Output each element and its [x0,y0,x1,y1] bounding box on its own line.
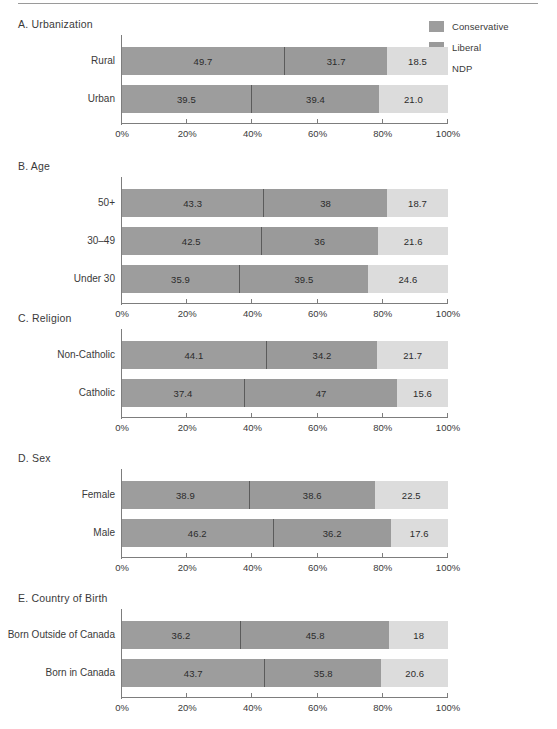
x-axis-tick-label: 0% [115,422,129,433]
legend-item-conservative: Conservative [429,18,549,35]
x-axis-tick [186,299,187,303]
bar-segment-value: 21.6 [404,236,423,247]
stacked-bar: 36.245.818 [122,621,448,649]
stacked-bar: 43.735.820.6 [122,659,448,687]
x-axis-tick-label: 20% [178,308,197,319]
x-axis-tick [382,553,383,557]
bar-row: Male46.236.217.6 [0,519,557,547]
bar-segment-value: 47 [316,388,327,399]
x-axis-line [121,123,448,124]
bar-segment-ndp: 20.6 [381,659,448,687]
bar-row: Born in Canada43.735.820.6 [0,659,557,687]
bar-segment-conservative: 43.7 [122,659,264,687]
bar-category-label: Born Outside of Canada [0,621,115,649]
bar-segment-liberal: 38.6 [249,481,375,509]
bar-segment-conservative: 49.7 [122,47,284,75]
bar-segment-value: 31.7 [327,56,346,67]
x-axis-tick-label: 60% [308,308,327,319]
bar-category-label: 30–49 [0,227,115,255]
bar-segment-ndp: 21.0 [379,85,447,113]
x-axis-tick-label: 40% [243,562,262,573]
stacked-bar: 35.939.524.6 [122,265,448,293]
bar-segment-value: 44.1 [184,350,203,361]
bar-row: Born Outside of Canada36.245.818 [0,621,557,649]
stacked-bar: 43.33818.7 [122,189,448,217]
x-axis-tick [121,299,122,303]
x-axis-tick [251,413,252,417]
legend-swatch-conservative-icon [429,21,444,32]
bar-segment-conservative: 37.4 [122,379,244,407]
x-axis-tick-label: 60% [308,562,327,573]
bar-segment-value: 24.6 [398,274,417,285]
x-axis-tick-label: 100% [436,702,460,713]
x-axis-tick-label: 60% [308,702,327,713]
bar-segment-liberal: 45.8 [240,621,389,649]
x-axis-tick-label: 80% [373,702,392,713]
bar-segment-value: 39.4 [306,94,325,105]
bar-row: Catholic37.44715.6 [0,379,557,407]
bar-segment-liberal: 36 [261,227,378,255]
panel-title: E. Country of Birth [18,592,108,604]
bar-segment-value: 49.7 [194,56,213,67]
stacked-bar: 37.44715.6 [122,379,448,407]
stacked-bar: 44.134.221.7 [122,341,448,369]
x-axis-tick [317,299,318,303]
x-axis-tick [447,693,448,697]
panel-title: A. Urbanization [18,18,93,30]
x-axis-tick-label: 80% [373,128,392,139]
bar-row: Non-Catholic44.134.221.7 [0,341,557,369]
bar-row: Female38.938.622.5 [0,481,557,509]
bar-category-label: Non-Catholic [0,341,115,369]
x-axis-tick-label: 0% [115,562,129,573]
x-axis-line [121,557,448,558]
bar-segment-conservative: 44.1 [122,341,266,369]
top-divider-rule [18,3,538,4]
x-axis-tick-label: 60% [308,128,327,139]
bar-segment-ndp: 24.6 [368,265,448,293]
x-axis-tick [447,299,448,303]
bar-category-label: Catholic [0,379,115,407]
panel-title: C. Religion [18,312,72,324]
x-axis-tick [121,119,122,123]
bar-segment-liberal: 35.8 [264,659,381,687]
bar-segment-value: 42.5 [182,236,201,247]
x-axis-line [121,417,448,418]
x-axis-tick-label: 80% [373,562,392,573]
bar-segment-conservative: 42.5 [122,227,261,255]
x-axis-tick [251,553,252,557]
bar-row: Under 3035.939.524.6 [0,265,557,293]
bar-segment-liberal: 47 [244,379,397,407]
bar-segment-value: 38.9 [176,490,195,501]
bar-row: 30–4942.53621.6 [0,227,557,255]
bar-segment-ndp: 15.6 [397,379,448,407]
x-axis-tick [447,413,448,417]
x-axis-tick-label: 0% [115,702,129,713]
bar-segment-value: 38.6 [303,490,322,501]
x-axis-tick-label: 40% [243,308,262,319]
bar-category-label: 50+ [0,189,115,217]
x-axis-tick [317,413,318,417]
x-axis-tick [121,413,122,417]
x-axis-tick-label: 100% [436,562,460,573]
x-axis-tick-label: 80% [373,422,392,433]
x-axis-tick [382,119,383,123]
x-axis-tick-label: 100% [436,128,460,139]
bar-segment-value: 43.3 [183,198,202,209]
x-axis-tick [121,553,122,557]
bar-segment-value: 17.6 [410,528,429,539]
bar-segment-value: 37.4 [174,388,193,399]
bar-segment-value: 43.7 [184,668,203,679]
bar-segment-conservative: 46.2 [122,519,273,547]
panel-title: B. Age [18,160,50,172]
bar-row: Urban39.539.421.0 [0,85,557,113]
bar-segment-value: 38 [320,198,331,209]
x-axis-tick [121,693,122,697]
bar-segment-value: 15.6 [413,388,432,399]
x-axis-tick-label: 100% [436,308,460,319]
x-axis-tick-label: 0% [115,128,129,139]
bar-category-label: Urban [0,85,115,113]
bar-segment-value: 18.7 [408,198,427,209]
x-axis-tick [186,553,187,557]
bar-segment-value: 35.9 [171,274,190,285]
bar-row: Rural49.731.718.5 [0,47,557,75]
